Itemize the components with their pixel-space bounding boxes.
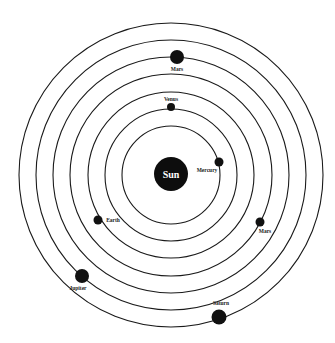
planet-label: Venus: [164, 96, 178, 102]
planet-mars: Mars: [256, 218, 272, 235]
planet-saturn: Saturn: [212, 300, 230, 325]
planet-dot: [75, 269, 89, 283]
planet-label: Mars: [259, 228, 272, 234]
planet-label: Saturn: [213, 300, 229, 306]
planet-dot: [94, 216, 103, 225]
planet-label: Jupiter: [69, 285, 87, 291]
planet-dot: [215, 158, 224, 167]
sun: Sun: [154, 157, 188, 191]
planet-mars: Mars: [170, 50, 184, 72]
planet-earth: Earth: [94, 216, 120, 225]
sun-label: Sun: [163, 169, 180, 180]
planet-jupiter: Jupiter: [69, 269, 89, 291]
planet-dot: [212, 310, 227, 325]
planet-label: Mars: [171, 66, 184, 72]
planet-dot: [256, 218, 265, 227]
planet-label: Mercury: [197, 167, 218, 173]
solar-system-diagram: Sun MarsVenusMercuryEarthMarsJupiterSatu…: [0, 0, 335, 343]
planet-dot: [167, 103, 175, 111]
planet-label: Earth: [106, 217, 120, 223]
planet-dot: [170, 50, 184, 64]
